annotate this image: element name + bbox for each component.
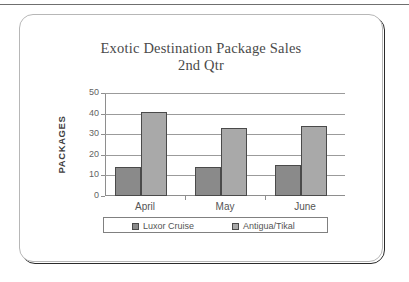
x-axis-label-april: April xyxy=(110,201,180,212)
bar-april-luxor-cruise xyxy=(115,167,141,196)
legend-swatch-icon xyxy=(232,223,239,230)
x-axis-tick xyxy=(265,196,266,200)
x-axis-label-may: May xyxy=(190,201,260,212)
plot-area: 50403020100 AprilMayJune xyxy=(105,93,345,196)
chart-legend: Luxor CruiseAntigua/Tikal xyxy=(103,217,328,233)
y-axis-tick-label: 30 xyxy=(73,128,99,138)
y-axis-tick xyxy=(101,175,105,176)
y-axis-tick xyxy=(101,155,105,156)
top-rule xyxy=(0,4,409,5)
bar-june-antigua-tikal xyxy=(301,126,327,196)
y-axis-tick xyxy=(101,196,105,197)
bar-chart: Exotic Destination Package Sales 2nd Qtr… xyxy=(19,14,383,262)
y-axis-tick-label: 0 xyxy=(73,190,99,200)
legend-swatch-icon xyxy=(132,223,139,230)
x-axis-label-june: June xyxy=(270,201,340,212)
y-axis-tick-label: 10 xyxy=(73,169,99,179)
y-axis-tick xyxy=(101,114,105,115)
y-axis-tick-label: 40 xyxy=(73,108,99,118)
x-axis-tick xyxy=(185,196,186,200)
y-axis-tick xyxy=(101,134,105,135)
y-axis-tick-label: 50 xyxy=(73,87,99,97)
chart-subtitle: 2nd Qtr xyxy=(19,57,383,74)
legend-label: Antigua/Tikal xyxy=(243,221,295,231)
bar-may-luxor-cruise xyxy=(195,167,221,196)
y-axis-tick-label: 20 xyxy=(73,149,99,159)
chart-title: Exotic Destination Package Sales 2nd Qtr xyxy=(19,40,383,74)
bar-april-antigua-tikal xyxy=(141,112,167,196)
bar-june-luxor-cruise xyxy=(275,165,301,196)
gridline xyxy=(105,93,345,94)
chart-title-line1: Exotic Destination Package Sales xyxy=(101,40,302,56)
y-axis-title: PACKAGES xyxy=(55,93,69,196)
bar-may-antigua-tikal xyxy=(221,128,247,196)
y-axis-tick xyxy=(101,93,105,94)
legend-entry-luxor-cruise: Luxor Cruise xyxy=(132,220,194,232)
legend-entry-antigua-tikal: Antigua/Tikal xyxy=(232,220,295,232)
legend-label: Luxor Cruise xyxy=(143,221,194,231)
